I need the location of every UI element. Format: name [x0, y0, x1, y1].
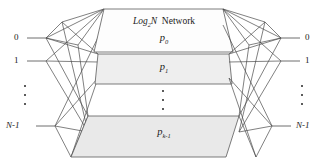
left-wire-0-to-p1: [46, 38, 98, 54]
plane-label-p1: p1: [104, 62, 224, 75]
right-wire-cross-j: [239, 22, 265, 132]
log-prefix-text: Log: [133, 16, 148, 26]
right-wire-pk1-to-n1: [256, 126, 272, 157]
left-ellipsis-dots: [22, 85, 28, 105]
output-label-0: 0: [305, 33, 310, 42]
left-wire-n1-to-pk1: [55, 126, 71, 157]
right-wire-cross-f: [249, 38, 281, 45]
right-ellipsis-dots: [299, 85, 305, 105]
plane-title-log2n: Log2N Network: [104, 17, 224, 28]
right-wire-cross-b: [223, 9, 265, 22]
left-wire-cross-b: [62, 9, 104, 22]
output-label-1: 1: [305, 56, 310, 65]
plane-subscript-p1: 1: [165, 67, 168, 74]
ellipsis-dot: [24, 85, 26, 87]
ellipsis-dot: [162, 108, 164, 110]
ellipsis-dot: [301, 94, 303, 96]
right-wire-p1-to-1: [229, 61, 281, 62]
plane-label-pk-1: pk-1: [104, 127, 224, 140]
right-wire-p1-to-0: [229, 38, 281, 54]
center-ellipsis-dots: [160, 90, 166, 110]
left-wire-cross-a: [62, 22, 98, 54]
output-label-n-1: N-1: [296, 121, 310, 130]
right-wire-cross-i: [239, 126, 272, 132]
left-input-stubs: [27, 38, 55, 126]
input-label-1: 1: [14, 56, 19, 65]
ellipsis-dot: [24, 103, 26, 105]
ellipsis-dot: [162, 90, 164, 92]
input-label-0: 0: [14, 33, 19, 42]
right-wire-cross-h: [239, 45, 249, 116]
ellipsis-dot: [301, 85, 303, 87]
ellipsis-dot: [24, 94, 26, 96]
ellipsis-dot: [162, 99, 164, 101]
right-output-stubs: [272, 38, 300, 126]
left-wire-cross-j: [62, 22, 88, 132]
plane-label-p0: p0: [104, 33, 224, 46]
ellipsis-dot: [301, 103, 303, 105]
right-wire-cross-c: [265, 22, 281, 38]
network-diagram: 0 1 N-1 0 1 N-1 Log2N Network p0 p1 pk-1: [0, 0, 325, 165]
plane-subscript-p0: 0: [165, 38, 168, 45]
input-label-n-1: N-1: [6, 121, 20, 130]
left-wire-cross-f: [46, 38, 78, 45]
left-wire-1-to-p1: [46, 61, 98, 62]
right-wire-cross-a: [229, 22, 265, 54]
plane-subscript-pk-1: k-1: [162, 132, 170, 139]
log-suffix-text: N: [151, 16, 157, 26]
network-word-text: Network: [162, 16, 195, 26]
left-wire-cross-c: [46, 22, 62, 38]
left-wire-cross-h: [78, 45, 88, 116]
